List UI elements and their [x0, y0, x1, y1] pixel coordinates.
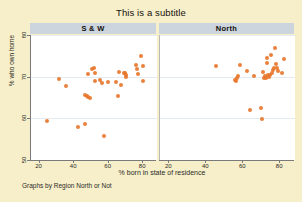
data-point: [100, 81, 104, 85]
chart-subtitle: This is a subtitle: [0, 7, 302, 18]
y-tick-label: 80: [21, 32, 27, 39]
gridline: [160, 118, 295, 119]
data-point: [141, 64, 145, 68]
data-point: [83, 122, 87, 126]
data-point: [57, 77, 61, 81]
x-axis-line-sw: [30, 160, 156, 161]
panel-header-north: North: [159, 23, 294, 34]
data-point: [76, 125, 80, 129]
x-axis-line-north: [159, 160, 294, 161]
panel-header-sw-label: S & W: [81, 24, 104, 33]
data-point: [282, 57, 286, 61]
data-point: [64, 84, 68, 88]
data-point: [248, 108, 252, 112]
data-point: [245, 69, 249, 73]
data-point: [252, 74, 256, 78]
y-tick: [27, 160, 30, 161]
data-point: [116, 94, 120, 98]
gridline: [160, 77, 295, 78]
y-tick: [27, 118, 30, 119]
data-point: [45, 119, 49, 123]
y-axis-line: [30, 35, 31, 161]
panel-plot-north: [159, 35, 295, 160]
data-point: [135, 67, 139, 71]
data-point: [92, 66, 96, 70]
data-point: [273, 46, 277, 50]
data-point: [93, 79, 97, 83]
y-tick-label: 50: [21, 157, 27, 164]
data-point: [238, 63, 242, 67]
stata-scatter-figure: This is a subtitle S & W North 20406080 …: [0, 0, 302, 202]
y-axis-title: % who own home: [8, 21, 15, 101]
data-point: [265, 61, 269, 65]
gridline: [160, 35, 295, 36]
data-point: [234, 79, 238, 83]
data-point: [236, 74, 240, 78]
panel-header-north-label: North: [216, 24, 238, 33]
data-point: [139, 54, 143, 58]
data-point: [124, 75, 128, 79]
data-point: [214, 64, 218, 68]
panel-plot-sw: [30, 35, 157, 160]
data-point: [102, 134, 106, 138]
gridline: [31, 35, 157, 36]
data-point: [86, 72, 90, 76]
data-point: [259, 106, 263, 110]
y-tick-label: 70: [21, 73, 27, 80]
data-point: [141, 79, 145, 83]
data-point: [136, 72, 140, 76]
gridline: [31, 77, 157, 78]
data-point: [93, 71, 97, 75]
data-point: [106, 80, 110, 84]
data-point: [88, 96, 92, 100]
data-point: [280, 71, 284, 75]
panel-header-sw: S & W: [30, 23, 156, 34]
data-point: [114, 80, 118, 84]
data-point: [269, 53, 273, 57]
gridline: [31, 118, 157, 119]
y-tick: [27, 35, 30, 36]
data-point: [117, 70, 121, 74]
data-point: [260, 117, 264, 121]
y-tick-label: 60: [21, 115, 27, 122]
y-tick: [27, 77, 30, 78]
data-point: [119, 83, 123, 87]
x-axis-title: % born in state of residence: [30, 169, 294, 176]
chart-note: Graphs by Region North or Not: [22, 182, 112, 189]
data-point: [261, 70, 265, 74]
